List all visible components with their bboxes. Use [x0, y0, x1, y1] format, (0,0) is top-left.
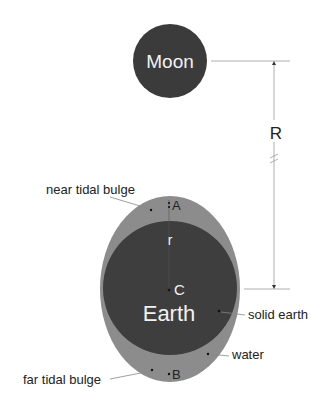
arrowhead-up-icon: [272, 61, 276, 65]
far-bulge-dot: [151, 369, 153, 371]
far-tidal-bulge-label: far tidal bulge: [23, 372, 101, 387]
earth: r C Earth A B: [100, 196, 240, 382]
solid-earth-label: solid earth: [248, 307, 308, 322]
earth-label: Earth: [143, 301, 196, 326]
center-point: [168, 289, 171, 292]
point-a-marker-2: [168, 206, 170, 208]
near-tidal-bulge-label: near tidal bulge: [46, 182, 135, 197]
center-label: C: [174, 281, 185, 298]
water-dot: [207, 353, 209, 355]
distance-label: R: [270, 124, 282, 143]
near-bulge-dot: [150, 209, 152, 211]
radius-label: r: [168, 232, 173, 248]
point-a-marker: [168, 202, 170, 204]
moon: Moon: [133, 24, 207, 98]
moon-label: Moon: [146, 51, 194, 72]
tidal-bulge-diagram: Moon R r C Earth A B near tidal bulge fa…: [0, 0, 329, 400]
solid-earth-dot: [218, 310, 221, 313]
water-label: water: [231, 347, 264, 362]
point-b-label: B: [172, 367, 181, 382]
point-b-marker: [168, 373, 170, 375]
arrowhead-down-icon: [272, 285, 276, 289]
point-a-label: A: [172, 198, 181, 213]
